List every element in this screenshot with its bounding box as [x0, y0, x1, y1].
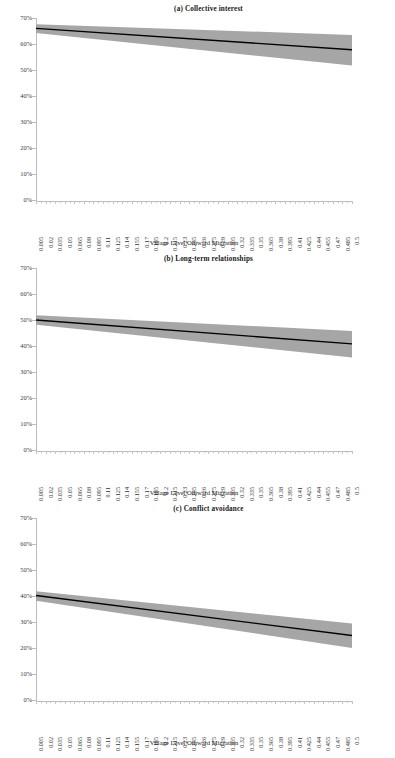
panel-c-x-tick-mark-minor: [137, 701, 138, 703]
panel-a-x-tick-labels: 0.0050.020.0350.050.0650.080.0950.110.12…: [36, 205, 352, 239]
panel-b-x-tick-mark: [256, 451, 257, 454]
panel-c-x-tick-mark: [160, 701, 161, 704]
panel-b-x-tick-mark-minor: [242, 451, 243, 453]
panel-c-x-tick-mark: [151, 701, 152, 704]
panel-b-y-tick-label: 60%: [4, 291, 32, 297]
panel-a-x-tick-mark-minor: [79, 201, 80, 203]
panel-b-x-tick-mark-minor: [232, 451, 233, 453]
panel-b-x-tick-mark: [46, 451, 47, 454]
panel-b-x-tick-mark-minor: [280, 451, 281, 453]
panel-b-x-tick-mark-minor: [223, 451, 224, 453]
panel-a-x-tick-mark: [65, 201, 66, 204]
panel-c-x-tick-mark: [256, 701, 257, 704]
panel-c-x-tick-mark: [122, 701, 123, 704]
panel-a-x-tick-mark-minor: [50, 201, 51, 203]
panel-c-x-tick-mark: [55, 701, 56, 704]
panel-b-x-tick-mark: [295, 451, 296, 454]
panel-c-confidence-band: [36, 591, 352, 648]
panel-c-x-tick-mark-minor: [299, 701, 300, 703]
panel-b-series-svg: [36, 268, 352, 450]
panel-c-x-tick-mark-minor: [251, 701, 252, 703]
panel-b-x-tick-mark: [151, 451, 152, 454]
panel-c-y-tick-label: 40%: [4, 593, 32, 599]
panel-a-x-tick-mark: [266, 201, 267, 204]
panel-c-x-tick-mark: [266, 701, 267, 704]
panel-a-x-tick-mark-minor: [108, 201, 109, 203]
panel-a-x-tick-mark: [141, 201, 142, 204]
panel-c-x-tick-mark-minor: [213, 701, 214, 703]
panel-c-series-svg: [36, 518, 352, 700]
panel-b-x-tick-mark: [189, 451, 190, 454]
panel-b-x-tick-mark-minor: [328, 451, 329, 453]
panel-b-x-tick-mark-minor: [117, 451, 118, 453]
panel-a-x-tick-mark: [314, 201, 315, 204]
panel-c-x-tick-mark-minor: [204, 701, 205, 703]
panel-b-x-tick-mark: [285, 451, 286, 454]
panel-c-x-tick-mark: [237, 701, 238, 704]
panel-c-x-tick-mark-minor: [70, 701, 71, 703]
panel-c-fit-line: [36, 595, 352, 635]
panel-a-x-tick-mark-minor: [194, 201, 195, 203]
panel-c-x-tick-mark: [275, 701, 276, 704]
panel-b-x-tick-mark: [333, 451, 334, 454]
panel-b-x-tick-mark: [208, 451, 209, 454]
panel-c-x-tick-labels: 0.0050.020.0350.050.0650.080.0950.110.12…: [36, 705, 352, 739]
panel-a-x-tick-mark: [74, 201, 75, 204]
panel-a-y-axis: 70%60%50%40%30%20%10%0%: [0, 0, 32, 250]
panel-c-x-tick-mark-minor: [41, 701, 42, 703]
panel-a-x-tick-mark-minor: [299, 201, 300, 203]
panel-b-x-tick-mark: [74, 451, 75, 454]
panel-b-x-tick-mark: [180, 451, 181, 454]
panel-a-x-tick-mark: [295, 201, 296, 204]
panel-c-x-tick-mark: [46, 701, 47, 704]
panel-a-y-tick-label: 40%: [4, 93, 32, 99]
panel-b-x-tick-mark-minor: [146, 451, 147, 453]
panel-a-x-tick-mark: [228, 201, 229, 204]
panel-c-x-tick-mark: [65, 701, 66, 704]
panel-b-x-tick-mark-minor: [194, 451, 195, 453]
panel-c-x-tick-mark-minor: [328, 701, 329, 703]
panel-a-plot-area: [36, 18, 352, 200]
panel-c-y-tick-label: 50%: [4, 567, 32, 573]
panel-a-confidence-band: [36, 24, 352, 65]
panel-c-x-tick-mark: [208, 701, 209, 704]
panel-a-x-tick-mark: [46, 201, 47, 204]
panel-a-x-tick-mark-minor: [290, 201, 291, 203]
panel-a-x-tick-mark-minor: [213, 201, 214, 203]
panel-b-x-tick-mark-minor: [175, 451, 176, 453]
panel-b-x-tick-mark: [314, 451, 315, 454]
panel-b-x-tick-mark-minor: [89, 451, 90, 453]
panel-b-x-tick-mark-minor: [70, 451, 71, 453]
panel-c-x-tick-mark: [333, 701, 334, 704]
panel-a-x-tick-mark: [352, 201, 353, 204]
panel-b-x-tick-mark: [342, 451, 343, 454]
panel-b-y-tick-label: 30%: [4, 369, 32, 375]
panel-b-x-tick-mark: [352, 451, 353, 454]
panel-b-y-tick-label: 10%: [4, 421, 32, 427]
panel-a-x-tick-mark: [199, 201, 200, 204]
panel-b-y-tick-label: 50%: [4, 317, 32, 323]
panel-c-x-tick-mark-minor: [50, 701, 51, 703]
panel-b-x-tick-mark: [36, 451, 37, 454]
panel-a-x-tick-mark-minor: [89, 201, 90, 203]
panel-b-x-tick-mark-minor: [261, 451, 262, 453]
panel-c-x-tick-mark-minor: [290, 701, 291, 703]
panel-b-x-tick-mark: [132, 451, 133, 454]
panel-b-x-tick-mark-minor: [347, 451, 348, 453]
panel-c-x-tick-mark-minor: [318, 701, 319, 703]
panel-b-x-tick-mark-minor: [309, 451, 310, 453]
panel-c-x-tick-mark-minor: [165, 701, 166, 703]
panel-c-x-tick-mark-minor: [127, 701, 128, 703]
panel-b-y-tick-label: 40%: [4, 343, 32, 349]
panel-b-x-tick-mark: [65, 451, 66, 454]
panel-b-x-tick-mark: [247, 451, 248, 454]
panel-a-x-tick-mark-minor: [156, 201, 157, 203]
panel-c-x-tick-mark-minor: [242, 701, 243, 703]
panel-a-x-tick-mark: [275, 201, 276, 204]
panel-b-x-tick-mark: [170, 451, 171, 454]
panel-c-x-tick-mark: [199, 701, 200, 704]
panel-a-y-tick-label: 70%: [4, 15, 32, 21]
panel-a-x-tick-mark-minor: [98, 201, 99, 203]
panel-b-x-tick-mark-minor: [156, 451, 157, 453]
panel-c-x-tick-mark: [103, 701, 104, 704]
